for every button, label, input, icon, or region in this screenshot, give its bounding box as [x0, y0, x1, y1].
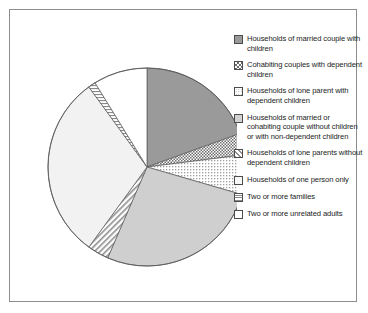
legend-swatch-solid-plain-white-icon	[234, 210, 243, 219]
legend-label: Two or more unrelated adults	[247, 209, 343, 219]
legend-item-married-couple-with-children: Households of married couple with childr…	[234, 34, 364, 53]
legend-item-lone-parent-dependent-children: Households of lone parent with dependent…	[234, 86, 364, 105]
legend-swatch-checker-dense-icon	[234, 61, 243, 70]
legend-swatch-diagonal-hatch-icon	[234, 149, 243, 158]
legend-label: Households of one person only	[247, 175, 349, 185]
legend-label: Households of lone parents without depen…	[247, 148, 364, 167]
legend-swatch-solid-dark-gray-icon	[234, 35, 243, 44]
legend-label: Two or more families	[247, 192, 315, 202]
legend-label: Households of lone parent with dependent…	[247, 86, 364, 105]
legend-swatch-dots-icon	[234, 87, 243, 96]
pie-chart-svg	[22, 40, 237, 285]
chart-legend: Households of married couple with childr…	[234, 34, 364, 296]
legend-item-cohabiting-couples-dependent-children: Cohabiting couples with dependent childr…	[234, 60, 364, 79]
legend-item-lone-parents-without-dependent-children: Households of lone parents without depen…	[234, 148, 364, 167]
legend-item-two-or-more-families: Two or more families	[234, 192, 364, 202]
legend-item-couple-without-children: Households of married or cohabiting coup…	[234, 113, 364, 142]
legend-swatch-solid-mid-gray-icon	[234, 114, 243, 123]
legend-swatch-solid-white-icon	[234, 176, 243, 185]
legend-label: Households of married or cohabiting coup…	[247, 113, 364, 142]
chart-frame: Households of married couple with childr…	[9, 9, 357, 302]
legend-swatch-horizontal-lines-icon	[234, 193, 243, 202]
pie-chart-figure: Households of married couple with childr…	[0, 0, 368, 313]
pie-chart-area	[22, 40, 237, 285]
legend-label: Cohabiting couples with dependent childr…	[247, 60, 364, 79]
legend-item-one-person-only: Households of one person only	[234, 175, 364, 185]
legend-item-two-or-more-unrelated-adults: Two or more unrelated adults	[234, 209, 364, 219]
legend-label: Households of married couple with childr…	[247, 34, 364, 53]
